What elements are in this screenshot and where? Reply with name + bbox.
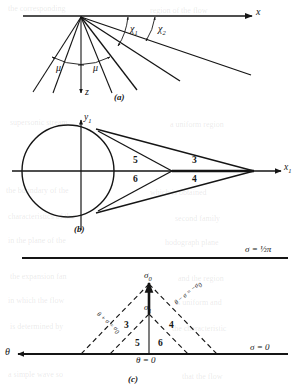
panel-b-outer-upper <box>96 129 254 171</box>
figure-container: x z μ μ χ1 χ2 (a) y1 x1 5 3 6 4 (b) σ = … <box>0 0 300 389</box>
panel-b-y-axis-subscript: 1 <box>88 117 91 124</box>
panel-a-mu-left-label: μ <box>56 63 61 73</box>
panel-a-ray-right-inner <box>81 17 112 93</box>
panel-c-region-6: 6 <box>158 339 163 349</box>
panel-c-graphics <box>18 258 288 354</box>
panel-a-x-axis-label: x <box>256 7 260 17</box>
panel-c-sigma1-label: σ1 <box>144 303 151 314</box>
panel-a-ray-right-mid <box>81 17 137 90</box>
panel-c-region-3: 3 <box>124 321 129 331</box>
panel-c-origin-label: θ = 0 <box>136 356 156 365</box>
panel-b-region-6: 6 <box>133 175 138 185</box>
panel-c-theta-axis-label: θ <box>5 347 10 357</box>
panel-a-chi2-subscript: 2 <box>162 29 165 36</box>
panel-c-sigma0-label: σ0 <box>144 271 152 282</box>
panel-b-region-4: 4 <box>192 175 197 185</box>
panel-b-caption: (b) <box>74 225 85 234</box>
panel-a-caption: (a) <box>114 93 125 102</box>
panel-c-bottom-line-label: σ = 0 <box>250 343 270 352</box>
panel-a-chi2-label: χ2 <box>158 24 166 37</box>
panel-c-sigma1-subscript: 1 <box>148 307 151 314</box>
panel-a-mu-right-label: μ <box>93 63 98 73</box>
panel-b-x-axis-label: x1 <box>284 163 291 174</box>
panel-b-region-5: 5 <box>133 156 138 166</box>
panel-a-chi1-label: χ1 <box>130 24 138 37</box>
panel-c-region-5: 5 <box>135 339 140 349</box>
panel-b-region-3: 3 <box>192 156 197 166</box>
panel-b-outer-lower <box>96 171 254 213</box>
panel-a-chi1-subscript: 1 <box>134 29 137 36</box>
panel-c-sigma0-subscript: 0 <box>148 275 151 282</box>
panel-b-y-axis-label: y1 <box>84 113 91 124</box>
panel-c-caption: (c) <box>128 375 138 384</box>
panel-b-x-axis-subscript: 1 <box>288 167 291 174</box>
panel-a-ray-right-far <box>81 17 251 75</box>
panel-a-z-axis-label: z <box>85 87 89 97</box>
figure-svg <box>0 0 300 389</box>
panel-c-region-4: 4 <box>169 321 174 331</box>
panel-c-top-line-label: σ = ½π <box>245 245 271 254</box>
panel-a-chi2-arc <box>146 17 155 41</box>
panel-b-graphics <box>12 120 281 230</box>
